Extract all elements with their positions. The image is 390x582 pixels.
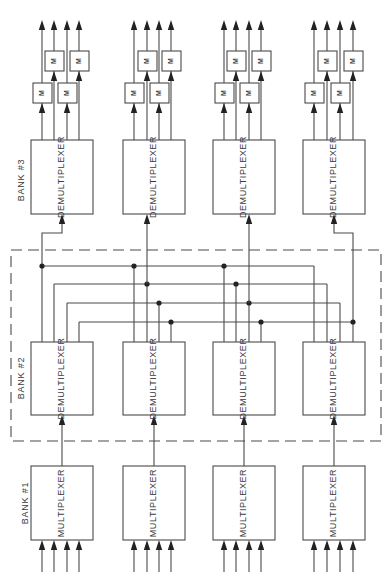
- modulator-input-arrow-icon: [168, 71, 174, 81]
- modulator-label: M: [143, 58, 150, 64]
- output-arrow-icon: [324, 20, 330, 30]
- bank-label-1: BANK #1: [20, 482, 30, 525]
- output-arrow-icon: [144, 20, 150, 30]
- multiplexer-label: MULTIPLEXER: [148, 469, 158, 537]
- bank1-input-arrow-icon: [39, 540, 45, 550]
- multiplexer-label: MULTIPLEXER: [238, 469, 248, 537]
- bank1-input-arrow-icon: [350, 540, 356, 550]
- bank1-input-arrow-icon: [76, 540, 82, 550]
- output-arrow-icon: [258, 20, 264, 30]
- switching-network-diagram: MULTIPLEXERDEMULTIPLEXERDEMULTIPLEXERMMM…: [0, 0, 390, 582]
- output-arrow-icon: [131, 20, 137, 30]
- junction-dot: [233, 281, 238, 286]
- modulator-label: M: [167, 58, 174, 64]
- modulator-input-arrow-icon: [51, 71, 57, 81]
- bank1-input-arrow-icon: [337, 540, 343, 550]
- diagram-canvas: MULTIPLEXERDEMULTIPLEXERDEMULTIPLEXERMMM…: [0, 0, 390, 582]
- modulator-label: M: [257, 58, 264, 64]
- modulator-label: M: [155, 90, 162, 96]
- output-arrow-icon: [233, 20, 239, 30]
- output-arrow-icon: [168, 20, 174, 30]
- bank1-input-arrow-icon: [156, 540, 162, 550]
- output-arrow-icon: [156, 20, 162, 30]
- modulator-label: M: [50, 58, 57, 64]
- junction-dot: [156, 300, 161, 305]
- multiplexer-label: MULTIPLEXER: [328, 469, 338, 537]
- modulator-label: M: [220, 90, 227, 96]
- demultiplexer-label: DEMULTIPLEXER: [148, 337, 158, 419]
- modulator-input-arrow-icon: [64, 103, 70, 113]
- bank1-input-arrow-icon: [233, 540, 239, 550]
- modulator-input-arrow-icon: [144, 71, 150, 81]
- bank3-feed-line: [334, 224, 353, 322]
- modulator-label: M: [323, 58, 330, 64]
- bank1-input-arrow-icon: [131, 540, 137, 550]
- modulator-label: M: [38, 90, 45, 96]
- output-arrow-icon: [246, 20, 252, 30]
- bank1-input-arrow-icon: [168, 540, 174, 550]
- demultiplexer-label: DEMULTIPLEXER: [328, 136, 338, 218]
- junction-dot: [131, 263, 136, 268]
- output-arrow-icon: [350, 20, 356, 30]
- bank1-input-arrow-icon: [324, 540, 330, 550]
- modulator-label: M: [310, 90, 317, 96]
- demultiplexer-label: DEMULTIPLEXER: [56, 337, 66, 419]
- junction-dot: [350, 319, 355, 324]
- modulator-input-arrow-icon: [246, 103, 252, 113]
- modulator-input-arrow-icon: [311, 103, 317, 113]
- bank1-input-arrow-icon: [144, 540, 150, 550]
- output-arrow-icon: [39, 20, 45, 30]
- demultiplexer-label: DEMULTIPLEXER: [56, 136, 66, 218]
- modulator-input-arrow-icon: [131, 103, 137, 113]
- modulator-label: M: [349, 58, 356, 64]
- junction-dot: [221, 263, 226, 268]
- demultiplexer-label: DEMULTIPLEXER: [238, 337, 248, 419]
- demultiplexer-label: DEMULTIPLEXER: [328, 337, 338, 419]
- modulator-input-arrow-icon: [39, 103, 45, 113]
- bank-label-3: BANK #3: [16, 159, 26, 202]
- output-arrow-icon: [51, 20, 57, 30]
- junction-dot: [39, 263, 44, 268]
- output-arrow-icon: [76, 20, 82, 30]
- modulator-input-arrow-icon: [350, 71, 356, 81]
- bank1-input-arrow-icon: [64, 540, 70, 550]
- demultiplexer-label: DEMULTIPLEXER: [238, 136, 248, 218]
- modulator-input-arrow-icon: [76, 71, 82, 81]
- bank1-input-arrow-icon: [51, 540, 57, 550]
- bank1-input-arrow-icon: [246, 540, 252, 550]
- modulator-label: M: [75, 58, 82, 64]
- output-arrow-icon: [221, 20, 227, 30]
- modulator-label: M: [130, 90, 137, 96]
- bank1-input-arrow-icon: [221, 540, 227, 550]
- modulator-input-arrow-icon: [337, 103, 343, 113]
- bank3-feed-line: [42, 224, 62, 266]
- junction-dot: [258, 319, 263, 324]
- modulator-input-arrow-icon: [156, 103, 162, 113]
- modulator-label: M: [232, 58, 239, 64]
- demultiplexer-label: DEMULTIPLEXER: [148, 136, 158, 218]
- modulator-input-arrow-icon: [221, 103, 227, 113]
- modulator-input-arrow-icon: [258, 71, 264, 81]
- modulator-label: M: [245, 90, 252, 96]
- output-arrow-icon: [311, 20, 317, 30]
- junction-dot: [168, 319, 173, 324]
- modulator-input-arrow-icon: [233, 71, 239, 81]
- multiplexer-label: MULTIPLEXER: [56, 469, 66, 537]
- modulator-label: M: [336, 90, 343, 96]
- bank1-input-arrow-icon: [311, 540, 317, 550]
- output-arrow-icon: [337, 20, 343, 30]
- output-arrow-icon: [64, 20, 70, 30]
- modulator-label: M: [63, 90, 70, 96]
- modulator-input-arrow-icon: [324, 71, 330, 81]
- bank-label-2: BANK #2: [16, 357, 26, 400]
- bank1-input-arrow-icon: [258, 540, 264, 550]
